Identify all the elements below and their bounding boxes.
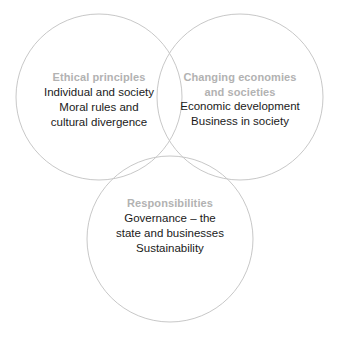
heading-responsibilities: Responsibilities: [83, 196, 257, 211]
label-responsibilities: Responsibilities Governance – the state …: [83, 196, 257, 256]
label-changing-economies-and-societies: Changing economies and societies Economi…: [153, 70, 327, 129]
body-responsibilities: Governance – the state and businesses Su…: [83, 211, 257, 257]
venn-diagram: Ethical principles Individual and societ…: [0, 0, 339, 347]
heading-changing-economies-and-societies: Changing economies and societies: [153, 70, 327, 99]
body-changing-economies-and-societies: Economic development Business in society: [153, 99, 327, 129]
venn-circles-layer: [0, 0, 339, 347]
